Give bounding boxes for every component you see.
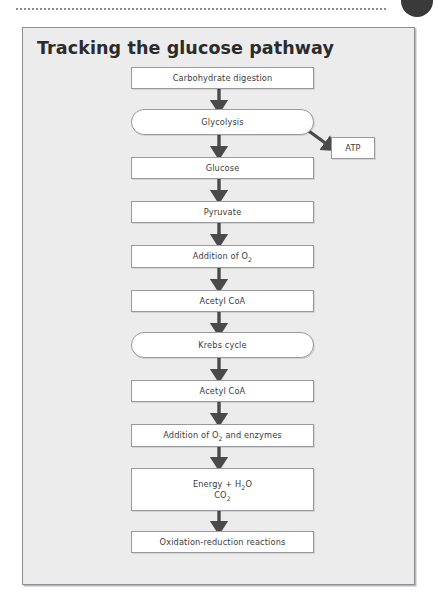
node-krebs-cycle[interactable]: Krebs cycle <box>131 332 314 358</box>
flowchart: Carbohydrate digestion Glycolysis ATP Gl… <box>23 28 416 586</box>
node-acetyl-coa-1[interactable]: Acetyl CoA <box>131 290 314 312</box>
node-acetyl-coa-2[interactable]: Acetyl CoA <box>131 380 314 402</box>
page-root: Tracking the glucose pathway <box>0 0 438 615</box>
node-oxidation-reduction-reactions[interactable]: Oxidation-reduction reactions <box>131 531 314 553</box>
node-label: Glucose <box>206 163 240 173</box>
node-label: Carbohydrate digestion <box>173 73 273 83</box>
node-label: ATP <box>345 143 360 153</box>
top-dotted-rule <box>16 8 386 10</box>
node-label-line-2: CO2 <box>214 490 231 500</box>
page-marker-circle-icon <box>401 0 433 17</box>
node-label: Addition of O2 <box>193 251 252 261</box>
node-label: Acetyl CoA <box>200 386 246 396</box>
node-energy-water-co2[interactable]: Energy + H2O CO2 <box>131 468 314 511</box>
subscript-2: 2 <box>248 256 252 263</box>
node-addition-of-o2[interactable]: Addition of O2 <box>131 245 314 268</box>
node-addition-of-o2-and-enzymes[interactable]: Addition of O2 and enzymes <box>131 424 314 447</box>
node-pyruvate[interactable]: Pyruvate <box>131 201 314 223</box>
node-label: Acetyl CoA <box>200 296 246 306</box>
subscript-2: 2 <box>227 495 231 502</box>
node-label: Oxidation-reduction reactions <box>160 537 286 547</box>
node-atp[interactable]: ATP <box>331 137 375 159</box>
glucose-pathway-panel: Tracking the glucose pathway <box>22 27 415 585</box>
node-label-line-1: Energy + H2O <box>193 479 252 489</box>
node-label: Glycolysis <box>201 117 243 127</box>
node-label: Addition of O2 and enzymes <box>163 430 281 440</box>
node-glycolysis[interactable]: Glycolysis <box>131 109 314 135</box>
node-glucose[interactable]: Glucose <box>131 157 314 179</box>
node-carbohydrate-digestion[interactable]: Carbohydrate digestion <box>131 67 314 89</box>
node-label: Krebs cycle <box>198 340 246 350</box>
node-label: Pyruvate <box>204 207 242 217</box>
